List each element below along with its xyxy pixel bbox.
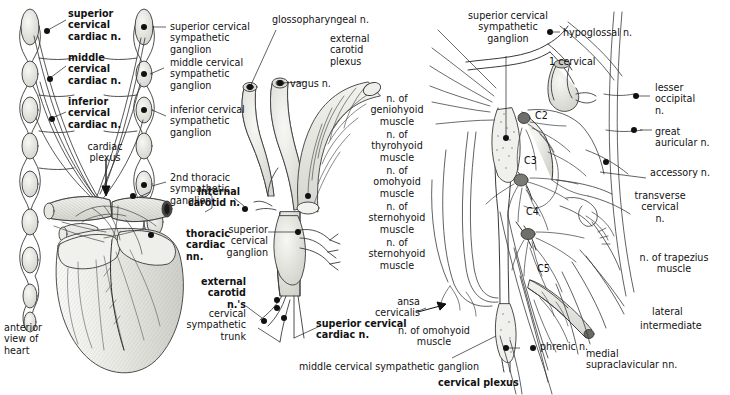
label-phrenic-n: phrenic n. [540, 341, 610, 352]
label-ansa-cervicalis: ansa cervicalis [366, 296, 420, 319]
label-glossopharyngeal-n: glossopharyngeal n. [272, 14, 392, 25]
label-n-of-omohyoid-muscle-bottom: n. of omohyoid muscle [390, 325, 478, 348]
label-internal-carotid-n: internal carotid n. [178, 186, 240, 209]
label-inferior-cervical-cardiac-n: inferior cervical cardiac n. [68, 96, 130, 130]
label-middle-cervical-cardiac-n: middle cervical cardiac n. [68, 52, 130, 86]
label-external-carotid-plexus: external carotid plexus [330, 33, 384, 67]
panel-sympathetic-trunk [242, 78, 383, 342]
label-lateral: lateral [652, 306, 712, 317]
label-great-auricular-n: great auricular n. [655, 126, 717, 149]
ansa-cervicalis-arrow [418, 302, 446, 312]
label-lesser-occipital-n: lesser occipital n. [655, 82, 703, 116]
label-accessory-n: accessory n. [650, 167, 720, 178]
label-cervical-plexus: cervical plexus [438, 377, 548, 388]
anatomical-figure: superior cervical cardiac n. middle cerv… [0, 0, 730, 395]
label-c2: C2 [535, 110, 555, 121]
label-n-of-thyrohyoid-muscle: n. of thyrohyoid muscle [366, 129, 428, 163]
label-cardiac-plexus: cardiac plexus [70, 141, 140, 164]
label-superior-cervical-cardiac-n: superior cervical cardiac n. [68, 8, 130, 42]
label-superior-cervical-ganglion: superior cervical ganglion [208, 224, 268, 258]
label-superior-cervical-sympathetic-ganglion: superior cervical sympathetic ganglion [170, 21, 270, 55]
label-intermediate: intermediate [640, 320, 722, 331]
label-superior-cervical-sympathetic-ganglion-right: superior cervical sympathetic ganglion [462, 10, 554, 44]
label-transverse-cervical-n: transverse cervical n. [630, 190, 690, 224]
label-n-of-sternohyoid-muscle-2: n. of sternohyoid muscle [364, 237, 430, 271]
label-anterior-view-of-heart: anterior view of heart [4, 322, 64, 356]
label-n-of-sternohyoid-muscle-1: n. of sternohyoid muscle [364, 201, 430, 235]
label-cervical-sympathetic-trunk: cervical sympathetic trunk [186, 308, 246, 342]
label-hypoglossal-n: hypoglossal n. [563, 27, 653, 38]
label-n-of-geniohyoid-muscle: n. of geniohyoid muscle [366, 93, 428, 127]
label-c3: C3 [524, 155, 544, 166]
label-c4: C4 [526, 206, 546, 217]
label-1-cervical: 1 cervical [549, 56, 609, 67]
label-n-of-omohyoid-muscle: n. of omohyoid muscle [366, 165, 428, 199]
label-inferior-cervical-sympathetic-ganglion: inferior cervical sympathetic ganglion [170, 104, 252, 138]
label-vagus-n: vagus n. [290, 78, 346, 89]
label-n-of-trapezius-muscle: n. of trapezius muscle [626, 252, 722, 275]
label-middle-cervical-sympathetic-ganglion-bottom: middle cervical sympathetic ganglion [299, 361, 499, 372]
label-middle-cervical-sympathetic-ganglion: middle cervical sympathetic ganglion [170, 57, 252, 91]
label-c5: C5 [537, 263, 557, 274]
label-external-carotid-ns: external carotid n.'s [186, 276, 246, 310]
